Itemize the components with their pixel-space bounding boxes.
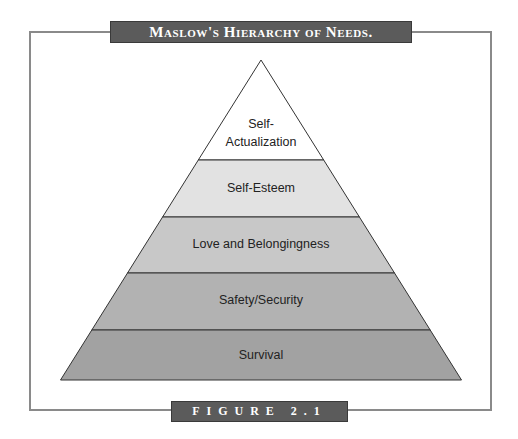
- label-safety-security: Safety/Security: [219, 293, 304, 307]
- pyramid-diagram: Self- Actualization Self-Esteem Love and…: [0, 0, 518, 439]
- label-self-esteem: Self-Esteem: [227, 181, 295, 195]
- label-self-actualization-1: Self-: [248, 117, 274, 131]
- label-self-actualization-2: Actualization: [226, 135, 297, 149]
- figure-number-banner: FIGURE 2.1: [171, 401, 348, 422]
- label-love-belongingness: Love and Belongingness: [193, 237, 330, 251]
- figure-number: FIGURE 2.1: [192, 404, 327, 419]
- label-survival: Survival: [239, 348, 283, 362]
